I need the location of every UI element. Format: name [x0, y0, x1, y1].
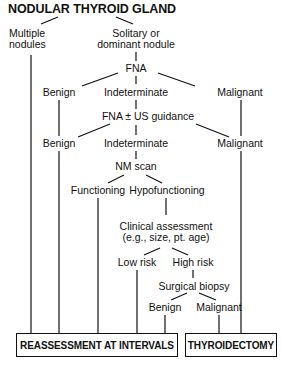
- outcome-thyroidectomy-box: THYROIDECTOMY: [185, 333, 277, 357]
- node-functioning: Functioning: [66, 185, 130, 196]
- node-multiple-nodules: Multiple nodules: [9, 28, 46, 50]
- node-nm-scan: NM scan: [106, 161, 166, 172]
- node-hypofunctioning: Hypofunctioning: [126, 185, 208, 196]
- node-malignant-2: Malignant: [210, 138, 270, 149]
- node-malignant-1: Malignant: [210, 87, 270, 98]
- node-fna-us-guidance: FNA ± US guidance: [96, 111, 200, 122]
- node-indeterminate-1: Indeterminate: [98, 87, 174, 98]
- node-clinical-line2: (e.g., size, pt. age): [116, 232, 216, 243]
- node-clinical-assessment: Clinical assessment (e.g., size, pt. age…: [116, 221, 216, 243]
- diagram-title: NODULAR THYROID GLAND: [8, 2, 176, 16]
- node-multiple-nodules-line2: nodules: [9, 39, 46, 50]
- node-benign-2: Benign: [36, 138, 82, 149]
- node-solitary-nodule: Solitary or dominant nodule: [86, 28, 186, 50]
- node-indeterminate-2: Indeterminate: [98, 138, 174, 149]
- outcome-reassessment-box: REASSESSMENT AT INTERVALS: [16, 333, 178, 357]
- node-fna: FNA: [116, 63, 156, 74]
- node-low-risk: Low risk: [114, 257, 160, 268]
- node-high-risk: High risk: [168, 257, 218, 268]
- node-benign-1: Benign: [36, 87, 82, 98]
- node-benign-3: Benign: [142, 302, 188, 313]
- node-surgical-biopsy: Surgical biopsy: [156, 281, 232, 292]
- node-malignant-3: Malignant: [190, 302, 248, 313]
- node-solitary-line2: dominant nodule: [86, 39, 186, 50]
